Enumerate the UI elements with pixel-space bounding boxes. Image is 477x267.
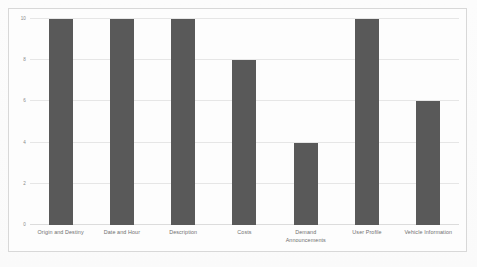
bars-group — [30, 19, 459, 225]
bar-slot — [214, 19, 275, 225]
bar-slot — [91, 19, 152, 225]
y-axis-tick-label: 10 — [21, 16, 26, 21]
x-axis-category-label: Date and Hour — [91, 228, 152, 244]
x-axis-category-label: Vehicle Information — [398, 228, 459, 244]
y-axis-tick-label: 0 — [23, 222, 26, 227]
chart-frame: 0246810 Origin and DestinyDate and HourD… — [8, 8, 467, 252]
bar[interactable] — [416, 101, 440, 225]
y-axis-tick-label: 4 — [23, 139, 26, 144]
bar-slot — [336, 19, 397, 225]
plot-area: 0246810 — [30, 19, 459, 225]
x-axis-category-label: Description — [153, 228, 214, 244]
bar-slot — [30, 19, 91, 225]
bar-slot — [398, 19, 459, 225]
x-axis-category-label: Costs — [214, 228, 275, 244]
bar-slot — [153, 19, 214, 225]
bar[interactable] — [171, 19, 195, 225]
bar[interactable] — [232, 60, 256, 225]
x-axis-category-label: Demand Announcements — [275, 228, 336, 244]
bar[interactable] — [110, 19, 134, 225]
x-axis-category-label: Origin and Destiny — [30, 228, 91, 244]
y-axis-tick-label: 6 — [23, 98, 26, 103]
bar-slot — [275, 19, 336, 225]
bar[interactable] — [294, 143, 318, 225]
bar[interactable] — [49, 19, 73, 225]
y-axis-tick-label: 2 — [23, 180, 26, 185]
x-axis-category-label: User Profile — [336, 228, 397, 244]
bar[interactable] — [355, 19, 379, 225]
x-axis-labels-group: Origin and DestinyDate and HourDescripti… — [30, 228, 459, 244]
y-axis-tick-label: 8 — [23, 57, 26, 62]
